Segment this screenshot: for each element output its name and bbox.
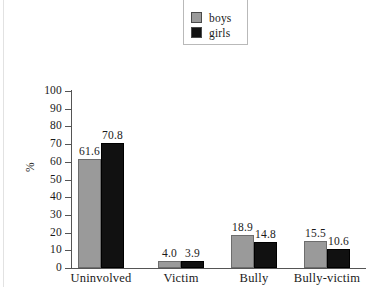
y-axis-tick-label: 100 bbox=[22, 85, 62, 96]
y-axis-tick bbox=[65, 144, 71, 145]
y-axis-tick-label: 70 bbox=[22, 138, 62, 149]
y-axis-tick-label: 90 bbox=[22, 103, 62, 114]
y-axis-tick bbox=[65, 233, 71, 234]
y-axis-tick bbox=[65, 162, 71, 163]
y-axis-title: % bbox=[24, 162, 36, 172]
bar-girls-victim bbox=[181, 261, 204, 268]
bar-value-label: 3.9 bbox=[175, 248, 210, 259]
y-axis-tick-label: 40 bbox=[22, 191, 62, 202]
bar-girls-uninvolved bbox=[101, 143, 124, 268]
y-axis-tick bbox=[65, 268, 71, 269]
y-axis-tick bbox=[65, 126, 71, 127]
y-axis-tick-label: 20 bbox=[22, 227, 62, 238]
y-axis-line bbox=[71, 90, 72, 269]
bar-boys-victim bbox=[158, 261, 181, 268]
bar-chart: 1009080706050403020100 % 61.670.84.03.91… bbox=[0, 0, 386, 287]
y-axis-tick bbox=[65, 197, 71, 198]
y-axis-tick bbox=[65, 109, 71, 110]
x-axis-category-label: Bully-victim bbox=[267, 271, 386, 285]
y-axis-tick-label: 30 bbox=[22, 209, 62, 220]
y-axis-tick bbox=[65, 91, 71, 92]
y-axis-tick bbox=[65, 180, 71, 181]
bar-girls-bully-victim bbox=[327, 249, 350, 268]
bar-value-label: 14.8 bbox=[248, 229, 283, 240]
y-axis-tick-label: 80 bbox=[22, 120, 62, 131]
x-axis-line bbox=[71, 268, 366, 269]
bar-girls-bully bbox=[254, 242, 277, 268]
y-axis-tick-label: 10 bbox=[22, 244, 62, 255]
bar-value-label: 70.8 bbox=[95, 130, 130, 141]
y-axis-tick bbox=[65, 215, 71, 216]
bar-boys-uninvolved bbox=[78, 159, 101, 268]
bar-value-label: 10.6 bbox=[321, 236, 356, 247]
y-axis-tick-label: 50 bbox=[22, 174, 62, 185]
y-axis-tick bbox=[65, 250, 71, 251]
